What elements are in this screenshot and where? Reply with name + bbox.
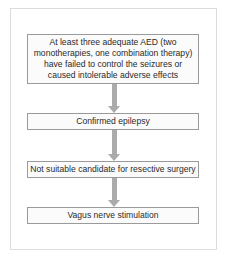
down-arrow-icon (108, 84, 120, 113)
flow-step-vagus-nerve-stimulation: Vagus nerve stimulation (27, 207, 199, 224)
flow-step-label: Vagus nerve stimulation (67, 210, 158, 221)
down-arrow-icon (108, 130, 120, 161)
down-arrow-icon (108, 178, 120, 207)
flow-step-confirmed-epilepsy: Confirmed epilepsy (27, 113, 199, 130)
flow-step-not-surgical-candidate: Not suitable candidate for resective sur… (27, 161, 199, 178)
flow-step-label: At least three adequate AED (two monothe… (30, 37, 196, 81)
flow-step-aed-failure: At least three adequate AED (two monothe… (27, 34, 199, 84)
flow-step-label: Confirmed epilepsy (76, 116, 150, 127)
flow-step-label: Not suitable candidate for resective sur… (30, 164, 195, 175)
